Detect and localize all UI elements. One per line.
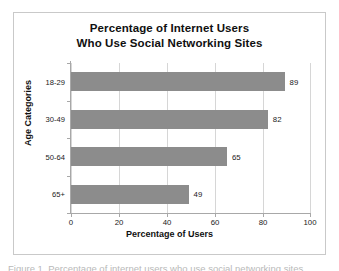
y-axis-tick — [67, 63, 71, 64]
y-tick-label-30-49: 30-49 — [46, 115, 65, 124]
y-axis-tick — [67, 138, 71, 139]
x-tick-label-20: 20 — [115, 218, 124, 227]
bar-value-label: 65 — [232, 152, 241, 161]
y-axis-title: Age Categories — [23, 68, 33, 158]
x-axis-tick — [167, 213, 168, 217]
x-axis-tick — [71, 213, 72, 217]
chart-title-line-1: Percentage of Internet Users — [14, 21, 325, 36]
y-axis-tick — [67, 176, 71, 177]
chart-title-line-2: Who Use Social Networking Sites — [14, 36, 325, 51]
x-tick-label-80: 80 — [259, 218, 268, 227]
x-axis-title: Percentage of Users — [14, 229, 325, 239]
y-axis-tick — [67, 101, 71, 102]
bar-30-49[interactable]: 82 — [71, 110, 268, 129]
x-axis-line — [70, 213, 311, 214]
x-tick-label-60: 60 — [211, 218, 220, 227]
chart-title: Percentage of Internet Users Who Use Soc… — [14, 21, 325, 51]
x-tick-label-0: 0 — [69, 218, 73, 227]
chart-card: Percentage of Internet Users Who Use Soc… — [13, 12, 326, 255]
x-axis-tick — [263, 213, 264, 217]
y-tick-label-65-plus: 65+ — [52, 190, 65, 199]
bar-value-label: 89 — [290, 77, 299, 86]
x-axis-tick — [215, 213, 216, 217]
x-tick-label-40: 40 — [163, 218, 172, 227]
x-axis-tick — [119, 213, 120, 217]
x-tick-label-100: 100 — [303, 218, 316, 227]
y-tick-label-50-64: 50-64 — [46, 152, 65, 161]
y-tick-label-18-29: 18-29 — [46, 77, 65, 86]
x-axis-tick — [310, 213, 311, 217]
caption-cutoff-text: Figure 1. Percentage of internet users w… — [8, 263, 333, 271]
bar-18-29[interactable]: 89 — [71, 72, 285, 91]
bar-65-plus[interactable]: 49 — [71, 185, 189, 204]
gridline-100 — [310, 63, 311, 213]
bar-50-64[interactable]: 65 — [71, 147, 227, 166]
bar-value-label: 49 — [194, 190, 203, 199]
bar-value-label: 82 — [273, 115, 282, 124]
plot-area: 89 82 65 49 18-29 30-49 50-64 65+ 0 20 4… — [71, 63, 311, 213]
